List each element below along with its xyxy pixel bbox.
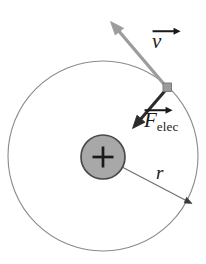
force-symbol: F: [144, 110, 157, 131]
force-subscript: elec: [157, 119, 179, 134]
radius-label: r: [156, 163, 163, 182]
velocity-symbol: v: [152, 31, 161, 52]
velocity-label: v: [152, 31, 161, 52]
physics-diagram: v F elec r: [0, 0, 206, 264]
force-label: F elec: [144, 110, 179, 133]
electron-marker: [163, 83, 172, 92]
